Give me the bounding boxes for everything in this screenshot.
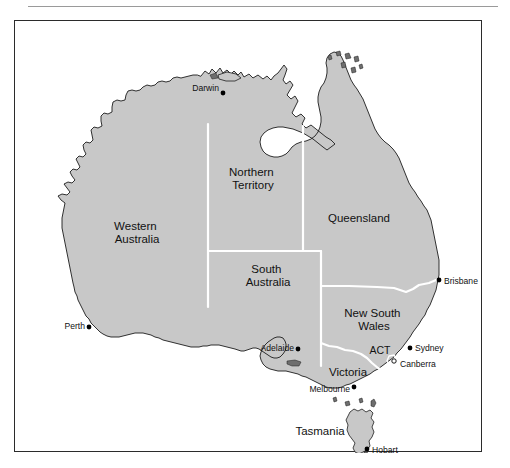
bass-strait-islet-b	[359, 398, 363, 403]
tasmania-shape	[346, 409, 374, 453]
torres-islet-5	[341, 62, 346, 68]
city-canberra: Canberra	[392, 359, 436, 369]
city-label-melbourne: Melbourne	[309, 384, 350, 394]
torres-islet-2	[336, 51, 341, 56]
torres-islet-7	[359, 64, 363, 69]
city-label-darwin: Darwin	[192, 83, 219, 93]
state-label-victoria: Victoria	[329, 366, 368, 378]
city-brisbane: Brisbane	[437, 276, 479, 286]
state-label-tasmania: Tasmania	[295, 425, 345, 437]
city-dot-brisbane	[437, 278, 442, 283]
city-dot-melbourne	[352, 385, 357, 390]
state-label-queensland: Queensland	[328, 212, 390, 224]
map-canvas: Western Australia Northern Territory Que…	[15, 21, 481, 451]
state-label-south-australia: South Australia	[246, 263, 291, 288]
torres-islet-4	[354, 56, 359, 62]
state-label-act: ACT	[370, 344, 392, 356]
australia-map-svg: Western Australia Northern Territory Que…	[15, 21, 483, 453]
city-label-canberra: Canberra	[400, 359, 436, 369]
map-figure-frame: Western Australia Northern Territory Que…	[14, 20, 482, 452]
top-horizontal-rule	[28, 6, 498, 7]
state-label-northern-territory: Northern Territory	[229, 166, 277, 191]
state-label-western-australia: Western Australia	[114, 220, 160, 245]
city-label-brisbane: Brisbane	[444, 276, 478, 286]
city-melbourne: Melbourne	[309, 384, 356, 394]
city-dot-sydney	[408, 346, 413, 351]
city-sydney: Sydney	[408, 343, 445, 353]
city-label-sydney: Sydney	[415, 343, 444, 353]
city-label-adelaide: Adelaide	[261, 343, 295, 353]
torres-islet-3	[345, 53, 351, 59]
city-perth: Perth	[64, 321, 91, 331]
city-dot-hobart	[365, 447, 370, 452]
city-dot-perth	[87, 325, 92, 330]
torres-islet-1	[328, 55, 332, 60]
city-dot-canberra	[392, 359, 396, 363]
city-dot-darwin	[221, 91, 226, 96]
torres-islet-6	[351, 67, 356, 73]
flinders-island	[371, 399, 376, 407]
bass-strait-islet-a	[345, 401, 350, 406]
city-label-hobart: Hobart	[372, 445, 398, 453]
city-label-perth: Perth	[64, 321, 85, 331]
city-dot-adelaide	[296, 347, 301, 352]
king-island	[333, 397, 337, 402]
